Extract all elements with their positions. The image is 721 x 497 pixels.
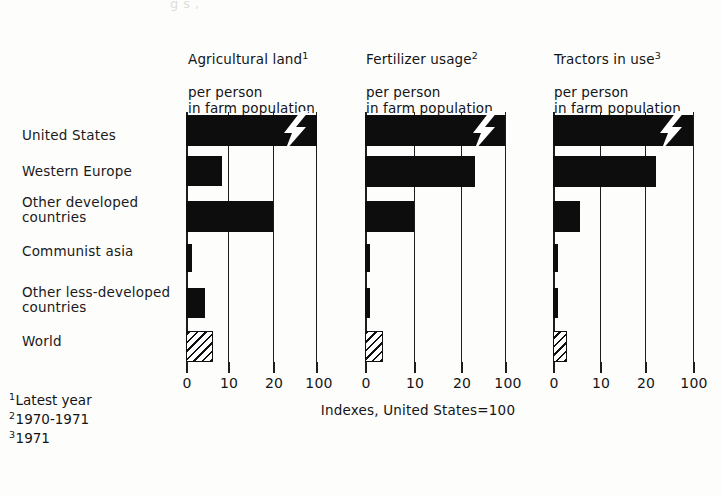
tick-10 <box>228 362 230 373</box>
bar-communist-asia <box>365 244 370 272</box>
ticklabel-20: 20 <box>265 375 283 391</box>
gridline-10 <box>414 112 415 362</box>
footnote-marker: 3 <box>9 429 15 440</box>
panel-title-text: Agricultural land <box>188 51 302 67</box>
plot-area-agricultural-land: 0 10 20 100 <box>186 112 317 362</box>
tick-20 <box>273 362 275 373</box>
footnote-3: 31971 <box>9 429 229 448</box>
ticklabel-10: 10 <box>220 375 238 391</box>
gridline-10 <box>600 112 601 362</box>
panel-title-text: Tractors in use <box>554 51 655 67</box>
tick-10 <box>600 362 602 373</box>
footnote-text: 1970-1971 <box>16 411 90 427</box>
panel-title-agricultural-land: Agricultural land1 per person in farm po… <box>188 34 338 117</box>
ticklabel-100: 100 <box>305 375 332 391</box>
bar-communist-asia <box>553 244 558 272</box>
footnote-marker: 1 <box>9 391 15 402</box>
gridline-20 <box>273 112 274 362</box>
ticklabel-10: 10 <box>406 375 424 391</box>
panel-title-superscript: 1 <box>302 49 308 60</box>
bar-united-states <box>186 115 317 146</box>
footnote-marker: 2 <box>9 410 15 421</box>
tick-0 <box>186 362 188 373</box>
panel-title-fertilizer-usage: Fertilizer usage2 per person in farm pop… <box>366 34 516 117</box>
gridline-0 <box>186 112 188 362</box>
bar-western-europe <box>553 156 656 187</box>
faint-top-title: g s , <box>170 0 630 14</box>
bar-united-states <box>365 115 505 146</box>
ticklabel-20: 20 <box>453 375 471 391</box>
bar-other-less-developed-countries <box>186 288 205 318</box>
plot-area-fertilizer-usage: 0 10 20 100 <box>365 112 505 362</box>
ticklabel-20: 20 <box>637 375 655 391</box>
gridline-0 <box>553 112 555 362</box>
bar-world <box>365 331 383 362</box>
gridline-10 <box>228 112 229 362</box>
bar-other-less-developed-countries <box>365 288 370 318</box>
category-label-united-states: United States <box>22 128 192 143</box>
bar-world <box>186 331 213 362</box>
footnote-text: 1971 <box>16 430 50 446</box>
tick-0 <box>553 362 555 373</box>
category-label-other-developed-countries: Other developed countries <box>22 195 192 225</box>
gridline-100 <box>316 112 317 362</box>
plot-area-tractors-in-use: 0 10 20 100 <box>553 112 693 362</box>
bar-other-less-developed-countries <box>553 288 558 318</box>
tick-100 <box>505 362 507 373</box>
gridline-100 <box>505 112 506 362</box>
ticklabel-100: 100 <box>494 375 521 391</box>
bar-communist-asia <box>186 244 192 272</box>
category-label-world: World <box>22 334 192 349</box>
footnote-2: 21970-1971 <box>9 410 229 429</box>
tick-20 <box>461 362 463 373</box>
bar-other-developed-countries <box>553 201 580 232</box>
gridline-0 <box>365 112 367 362</box>
footnote-1: 1Latest year <box>9 391 229 410</box>
ticklabel-0: 0 <box>549 375 558 391</box>
category-label-western-europe: Western Europe <box>22 164 192 179</box>
tick-10 <box>414 362 416 373</box>
bar-united-states <box>553 115 693 146</box>
footnote-text: Latest year <box>16 392 92 408</box>
gridline-20 <box>645 112 646 362</box>
ticklabel-0: 0 <box>361 375 370 391</box>
bar-other-developed-countries <box>365 201 414 232</box>
bar-world <box>553 331 567 362</box>
category-label-other-less-developed-countries: Other less-developed countries <box>22 285 192 315</box>
bar-western-europe <box>186 156 222 186</box>
bar-other-developed-countries <box>186 201 273 232</box>
tick-100 <box>693 362 695 373</box>
chart-figure: g s , United States Western Europe Other… <box>0 0 721 497</box>
gridline-100 <box>693 112 694 362</box>
tick-20 <box>645 362 647 373</box>
panel-title-text: Fertilizer usage <box>366 51 472 67</box>
gridline-20 <box>461 112 462 362</box>
axis-caption: Indexes, United States=100 <box>268 402 568 418</box>
category-label-column: United States Western Europe Other devel… <box>8 112 180 362</box>
ticklabel-100: 100 <box>680 375 707 391</box>
footnote-block: 1Latest year 21970-1971 31971 <box>9 391 229 448</box>
category-label-communist-asia: Communist asia <box>22 244 192 259</box>
bar-western-europe <box>365 156 475 187</box>
panel-title-superscript: 3 <box>655 49 661 60</box>
ticklabel-10: 10 <box>592 375 610 391</box>
tick-100 <box>316 362 318 373</box>
panel-title-tractors-in-use: Tractors in use3 per person in farm popu… <box>554 34 709 117</box>
panel-title-superscript: 2 <box>472 49 478 60</box>
ticklabel-0: 0 <box>182 375 191 391</box>
tick-0 <box>365 362 367 373</box>
